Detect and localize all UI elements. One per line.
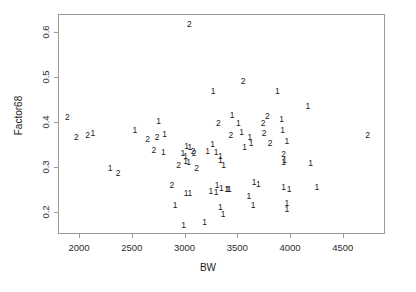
y-tick-mark <box>54 32 58 33</box>
data-point-1: 1 <box>173 200 178 209</box>
x-tick-label: 4500 <box>332 242 353 253</box>
x-tick-mark <box>237 234 238 238</box>
data-point-1: 1 <box>161 148 166 157</box>
data-point-2: 2 <box>155 133 160 142</box>
x-tick-label: 2500 <box>121 242 142 253</box>
data-point-1: 1 <box>280 125 285 134</box>
data-point-2: 2 <box>194 163 199 172</box>
data-point-2: 2 <box>262 128 267 137</box>
data-point-1: 1 <box>242 143 247 152</box>
data-point-2: 2 <box>65 113 70 122</box>
data-point-1: 1 <box>205 146 210 155</box>
x-tick-mark <box>343 234 344 238</box>
data-point-1: 1 <box>284 205 289 214</box>
data-point-1: 1 <box>281 182 286 191</box>
data-point-1: 1 <box>308 159 313 168</box>
data-point-2: 2 <box>85 131 90 140</box>
data-point-1: 1 <box>230 110 235 119</box>
data-point-2: 2 <box>152 145 157 154</box>
data-point-1: 1 <box>251 201 256 210</box>
data-point-2: 2 <box>241 77 246 86</box>
data-point-1: 1 <box>306 102 311 111</box>
y-tick-label: 0.4 <box>40 113 51 131</box>
data-point-1: 1 <box>275 87 280 96</box>
data-point-2: 2 <box>192 149 197 158</box>
data-point-2: 2 <box>176 161 181 170</box>
data-point-1: 1 <box>186 158 191 167</box>
x-tick-mark <box>185 234 186 238</box>
y-tick-label: 0.3 <box>40 158 51 176</box>
y-axis-title: Factor68 <box>13 76 24 156</box>
data-point-2: 2 <box>229 131 234 140</box>
data-point-1: 1 <box>284 136 289 145</box>
data-point-2: 2 <box>268 139 273 148</box>
data-point-1: 1 <box>162 130 167 139</box>
x-tick-label: 3000 <box>174 242 195 253</box>
data-point-2: 2 <box>116 169 121 178</box>
data-point-1: 1 <box>108 163 113 172</box>
data-point-1: 1 <box>315 182 320 191</box>
x-tick-mark <box>132 234 133 238</box>
data-point-1: 1 <box>219 184 224 193</box>
y-tick-mark <box>54 122 58 123</box>
data-point-1: 1 <box>133 125 138 134</box>
x-tick-mark <box>79 234 80 238</box>
data-point-1: 1 <box>90 128 95 137</box>
data-point-1: 1 <box>156 116 161 125</box>
x-tick-label: 4000 <box>280 242 301 253</box>
data-point-1: 1 <box>209 186 214 195</box>
data-point-1: 1 <box>239 127 244 136</box>
data-point-2: 2 <box>187 20 192 29</box>
data-point-1: 1 <box>281 158 286 167</box>
x-tick-label: 2000 <box>69 242 90 253</box>
data-point-1: 1 <box>202 218 207 227</box>
data-point-1: 1 <box>211 87 216 96</box>
data-point-1: 1 <box>187 189 192 198</box>
y-tick-mark <box>54 167 58 168</box>
y-tick-label: 0.6 <box>40 23 51 41</box>
data-point-2: 2 <box>265 112 270 121</box>
data-point-1: 1 <box>221 210 226 219</box>
data-point-2: 2 <box>365 131 370 140</box>
y-tick-label: 0.5 <box>40 68 51 86</box>
data-point-1: 1 <box>249 139 254 148</box>
data-point-layer: 1111111111111111111111111111111111111111… <box>59 15 384 233</box>
data-point-1: 1 <box>256 180 261 189</box>
data-point-1: 1 <box>221 161 226 170</box>
y-tick-label: 0.2 <box>40 203 51 221</box>
data-point-1: 1 <box>214 188 219 197</box>
data-point-2: 2 <box>281 150 286 159</box>
plot-area: 1111111111111111111111111111111111111111… <box>58 14 385 234</box>
data-point-1: 1 <box>279 115 284 124</box>
data-point-2: 2 <box>145 135 150 144</box>
data-point-1: 1 <box>287 185 292 194</box>
data-point-2: 2 <box>170 180 175 189</box>
x-axis-title: BW <box>0 262 416 273</box>
data-point-2: 2 <box>74 133 79 142</box>
x-tick-mark <box>290 234 291 238</box>
y-tick-mark <box>54 212 58 213</box>
y-tick-mark <box>54 77 58 78</box>
data-point-1: 1 <box>181 221 186 230</box>
data-point-2: 2 <box>216 119 221 128</box>
data-point-1: 1 <box>227 185 232 194</box>
scatter-plot-figure: 1111111111111111111111111111111111111111… <box>0 0 416 292</box>
x-tick-label: 3500 <box>227 242 248 253</box>
